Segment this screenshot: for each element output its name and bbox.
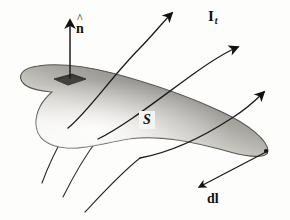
line-element-label: dl	[207, 192, 219, 206]
dl-vector-shaft	[199, 152, 266, 187]
current-symbol: I	[208, 8, 214, 24]
figure-container: ^ n It S dl	[0, 0, 290, 220]
diagram-canvas	[0, 0, 290, 220]
normal-vector-label: ^ n	[76, 14, 84, 35]
flux-tail-3	[85, 158, 140, 212]
normal-symbol: n	[76, 22, 84, 35]
current-subscript: t	[215, 15, 218, 26]
current-label: It	[208, 9, 218, 26]
surface-label: S	[140, 112, 154, 128]
